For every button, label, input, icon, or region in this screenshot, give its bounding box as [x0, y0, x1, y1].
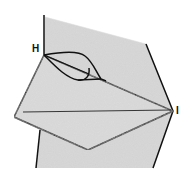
point-h-label: H: [32, 44, 39, 54]
point-i-label: I: [176, 106, 179, 116]
origami-diagram: [0, 0, 191, 183]
